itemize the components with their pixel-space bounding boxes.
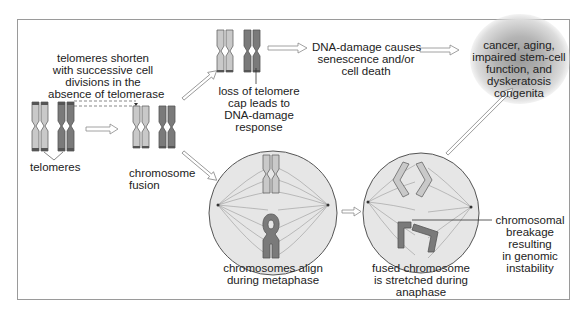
metaphase-cell xyxy=(209,151,337,275)
text-line: fusion xyxy=(129,179,195,191)
chromosome-pair-uncapped xyxy=(217,30,260,84)
text-line: chromosomes align xyxy=(218,262,328,274)
text-line: chromosome xyxy=(129,167,195,179)
text-line: congenita xyxy=(462,87,576,99)
telomere-shortening-dashes xyxy=(74,101,136,106)
text-line: with successive cell xyxy=(48,64,158,76)
label-dna-damage: DNA-damage causes senescence and/or cell… xyxy=(312,41,420,77)
arrow-right-3 xyxy=(420,45,459,55)
text-line: cancer, aging, xyxy=(462,39,576,51)
label-loss-of-cap: loss of telomere cap leads to DNA-damage… xyxy=(214,85,304,133)
label-telomeres: telomeres xyxy=(30,161,81,173)
text-line: in genomic xyxy=(490,250,570,262)
text-line: during metaphase xyxy=(218,274,328,286)
text-line: absence of telomerase xyxy=(48,88,158,100)
label-telomeres-shorten: telomeres shorten with successive cell d… xyxy=(48,52,158,100)
label-breakage: chromosomal breakage resulting in genomi… xyxy=(490,214,570,274)
text-line: cap leads to xyxy=(214,97,304,109)
text-line: dyskeratosis xyxy=(462,75,576,87)
text-line: telomeres shorten xyxy=(48,52,158,64)
label-anaphase: fused chromosome is stretched during ana… xyxy=(366,262,476,298)
text-line: instability xyxy=(490,262,570,274)
arrow-right-1 xyxy=(86,124,118,134)
text-line: cell death xyxy=(312,65,420,77)
chromosome-pair-initial xyxy=(32,102,74,160)
text-line: is stretched during xyxy=(366,274,476,286)
text-line: function, and xyxy=(462,63,576,75)
text-line: DNA-damage causes xyxy=(312,41,420,53)
text-line: breakage xyxy=(490,226,570,238)
text-line: impaired stem-cell xyxy=(462,51,576,63)
anaphase-cell xyxy=(363,153,492,273)
arrow-right-2 xyxy=(268,43,307,53)
arrow-right-4 xyxy=(342,207,361,216)
label-chromosome-fusion: chromosome fusion xyxy=(129,167,195,191)
text-line: resulting xyxy=(490,238,570,250)
label-outcomes: cancer, aging, impaired stem-cell functi… xyxy=(462,39,576,99)
text-line: DNA-damage xyxy=(214,109,304,121)
text-line: divisions in the xyxy=(48,76,158,88)
chromosome-pair-shortened xyxy=(133,106,175,148)
text-line: senescence and/or xyxy=(312,53,420,65)
text-line: anaphase xyxy=(366,286,476,298)
text-line: response xyxy=(214,121,304,133)
text-line: fused chromosome xyxy=(366,262,476,274)
label-metaphase: chromosomes align during metaphase xyxy=(218,262,328,286)
text-line: chromosomal xyxy=(490,214,570,226)
text-line: loss of telomere xyxy=(214,85,304,97)
